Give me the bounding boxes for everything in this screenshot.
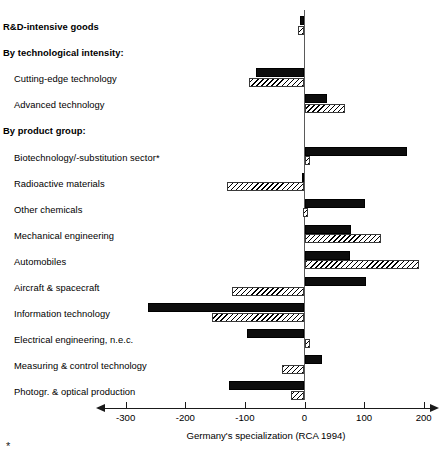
- axis-arrow-right-icon: [430, 404, 439, 412]
- row-label: Advanced technology: [14, 92, 105, 118]
- chart-row: By technological intensity:: [0, 40, 448, 66]
- row-label: Mechanical engineering: [14, 223, 114, 249]
- x-tick: [364, 402, 365, 409]
- row-label: By product group:: [3, 118, 86, 144]
- bar-solid: [256, 68, 305, 77]
- chart-row: Automobiles: [0, 249, 448, 275]
- bar-hatched: [232, 287, 305, 296]
- x-tick-label: 100: [341, 412, 387, 423]
- x-tick-label: -100: [222, 412, 268, 423]
- bar-hatched: [305, 260, 419, 269]
- row-label: Radioactive materials: [14, 171, 105, 197]
- bar-solid: [305, 225, 351, 234]
- bar-solid: [305, 251, 351, 260]
- x-tick: [245, 402, 246, 409]
- row-label: Aircraft & spacecraft: [14, 275, 99, 301]
- bar-solid: [305, 199, 366, 208]
- plot-area: R&D-intensive goodsBy technological inte…: [0, 0, 448, 400]
- bar-solid: [302, 173, 304, 182]
- bar-solid: [247, 329, 305, 338]
- x-tick: [305, 402, 306, 409]
- row-label: Other chemicals: [14, 197, 82, 223]
- axis-arrow-left-icon: [96, 404, 105, 412]
- bar-solid: [300, 16, 305, 25]
- bar-solid: [229, 381, 305, 390]
- chart-row: Mechanical engineering: [0, 223, 448, 249]
- row-label: Biotechnology/-substitution sector*: [14, 145, 160, 171]
- x-tick: [126, 402, 127, 409]
- row-label: By technological intensity:: [3, 40, 124, 66]
- chart-row: Biotechnology/-substitution sector*: [0, 145, 448, 171]
- chart-row: Measuring & control technology: [0, 353, 448, 379]
- footnote-marker: *: [6, 440, 10, 452]
- row-label: Measuring & control technology: [14, 353, 147, 379]
- bar-hatched: [291, 391, 304, 400]
- bar-solid: [305, 94, 328, 103]
- chart-row: Other chemicals: [0, 197, 448, 223]
- row-label: Information technology: [14, 301, 110, 327]
- bar-solid: [148, 303, 304, 312]
- row-label: Automobiles: [14, 249, 66, 275]
- row-label: R&D-intensive goods: [3, 14, 99, 40]
- bar-hatched: [305, 104, 346, 113]
- x-tick-label: 200: [401, 412, 447, 423]
- bar-hatched: [305, 339, 310, 348]
- bar-hatched: [303, 208, 308, 217]
- bar-hatched: [282, 365, 304, 374]
- bar-solid: [305, 147, 408, 156]
- x-axis-title: Germany's specialization (RCA 1994): [0, 430, 448, 441]
- chart-row: Electrical engineering, n.e.c.: [0, 327, 448, 353]
- chart-row: Radioactive materials: [0, 171, 448, 197]
- chart-row: Aircraft & spacecraft: [0, 275, 448, 301]
- rca-specialization-chart: R&D-intensive goodsBy technological inte…: [0, 0, 448, 456]
- chart-row: Information technology: [0, 301, 448, 327]
- bar-hatched: [227, 182, 304, 191]
- chart-row: Advanced technology: [0, 92, 448, 118]
- bar-solid: [305, 277, 366, 286]
- x-tick-label: -200: [162, 412, 208, 423]
- bar-hatched: [212, 313, 304, 322]
- row-label: Cutting-edge technology: [14, 66, 117, 92]
- bar-hatched: [305, 156, 310, 165]
- x-tick: [185, 402, 186, 409]
- x-axis: -300-200-1000100200 Germany's specializa…: [0, 400, 448, 456]
- bar-solid: [305, 355, 323, 364]
- bar-hatched: [305, 234, 381, 243]
- x-tick-label: -300: [103, 412, 149, 423]
- x-tick-label: 0: [282, 412, 328, 423]
- chart-row: By product group:: [0, 118, 448, 144]
- row-label: Electrical engineering, n.e.c.: [14, 327, 133, 353]
- bar-hatched: [298, 26, 305, 35]
- chart-row: Cutting-edge technology: [0, 66, 448, 92]
- bar-hatched: [249, 78, 304, 87]
- x-axis-line: [103, 408, 433, 409]
- chart-row: R&D-intensive goods: [0, 14, 448, 40]
- x-tick: [424, 402, 425, 409]
